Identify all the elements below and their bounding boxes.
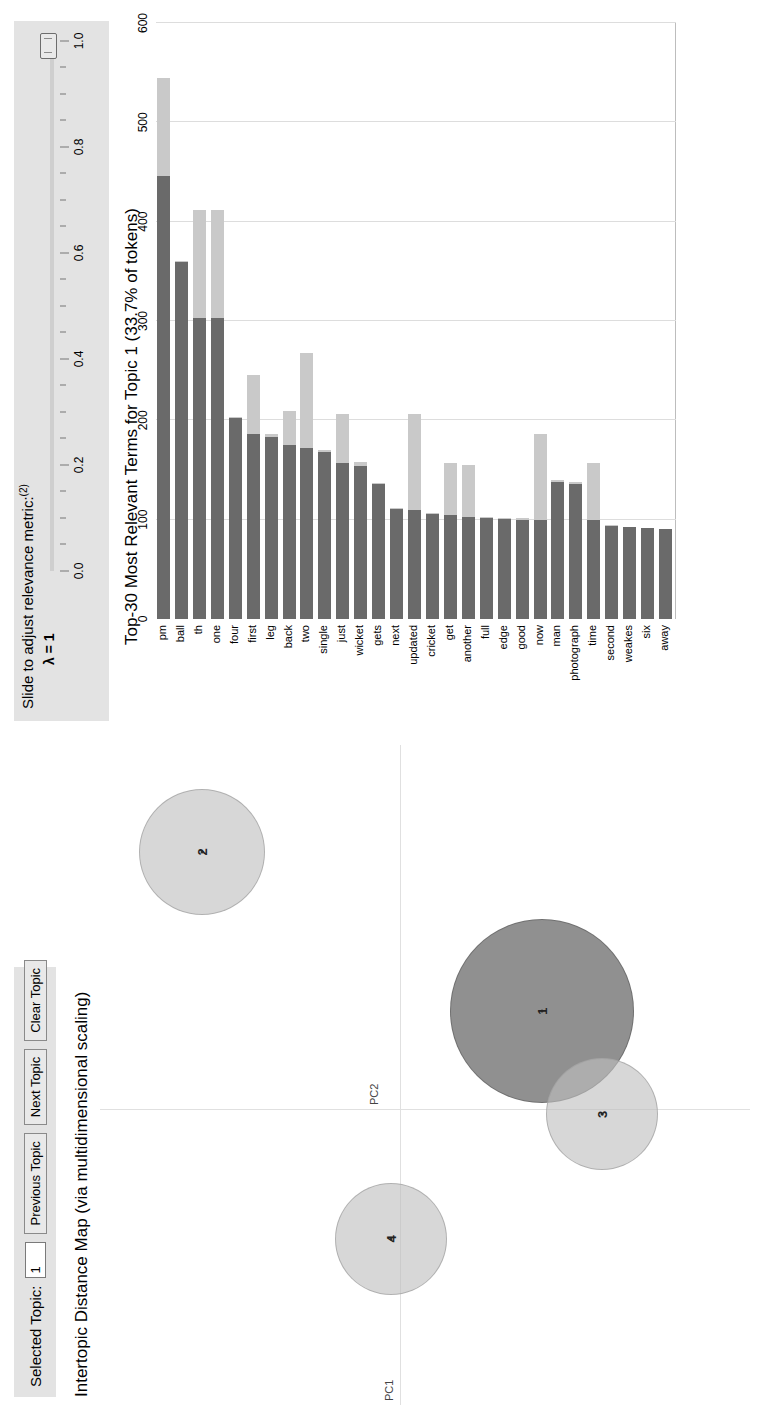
slider-handle[interactable] <box>40 33 57 59</box>
bar-topic-frequency[interactable] <box>175 262 188 619</box>
bar-topic-frequency[interactable] <box>372 484 385 619</box>
barchart-term-label[interactable]: leg <box>264 625 277 640</box>
bar-topic-frequency[interactable] <box>426 514 439 619</box>
barchart-term-row[interactable]: now <box>534 23 547 619</box>
bar-topic-frequency[interactable] <box>659 529 672 619</box>
bar-topic-frequency[interactable] <box>462 517 475 619</box>
barchart-term-row[interactable]: four <box>229 23 242 619</box>
bar-topic-frequency[interactable] <box>551 482 564 619</box>
barchart-term-label[interactable]: away <box>658 625 671 651</box>
barchart-term-row[interactable]: wicket <box>354 23 367 619</box>
barchart-term-row[interactable]: pm <box>157 23 170 619</box>
barchart-term-row[interactable]: good <box>516 23 529 619</box>
barchart-term-label[interactable]: back <box>282 625 295 648</box>
clear-topic-button[interactable]: Clear Topic <box>24 960 47 1041</box>
barchart-term-row[interactable]: six <box>641 23 654 619</box>
barchart-term-label[interactable]: cricket <box>425 625 438 657</box>
barchart-term-row[interactable]: single <box>318 23 331 619</box>
barchart-term-label[interactable]: edge <box>497 625 510 649</box>
barchart-term-row[interactable]: th <box>193 23 206 619</box>
barchart-term-row[interactable]: one <box>211 23 224 619</box>
next-topic-button[interactable]: Next Topic <box>24 1049 47 1125</box>
barchart-term-label[interactable]: one <box>210 625 223 643</box>
bar-topic-frequency[interactable] <box>408 510 421 619</box>
barchart-term-label[interactable]: time <box>586 625 599 646</box>
barchart-term-row[interactable]: two <box>300 23 313 619</box>
topic-bubble-label[interactable]: 2 <box>195 848 210 855</box>
barchart-term-row[interactable]: leg <box>265 23 278 619</box>
bar-topic-frequency[interactable] <box>336 463 349 619</box>
barchart-term-label[interactable]: second <box>604 625 617 660</box>
barchart-term-row[interactable]: photograph <box>569 23 582 619</box>
bar-topic-frequency[interactable] <box>444 515 457 619</box>
bar-topic-frequency[interactable] <box>157 176 170 619</box>
topic-bubble-label[interactable]: 3 <box>595 1111 610 1118</box>
barchart-term-label[interactable]: wicket <box>353 625 366 656</box>
barchart-term-row[interactable]: just <box>336 23 349 619</box>
barchart-term-row[interactable]: back <box>283 23 296 619</box>
barchart-term-label[interactable]: man <box>550 625 563 646</box>
barchart-term-row[interactable]: man <box>551 23 564 619</box>
barchart-term-row[interactable]: updated <box>408 23 421 619</box>
bar-topic-frequency[interactable] <box>283 445 296 619</box>
barchart-term-row[interactable]: next <box>390 23 403 619</box>
bar-topic-frequency[interactable] <box>641 528 654 619</box>
barchart-term-label[interactable]: weakes <box>622 625 635 662</box>
barchart-term-label[interactable]: good <box>515 625 528 649</box>
barchart-term-row[interactable]: second <box>605 23 618 619</box>
bar-topic-frequency[interactable] <box>587 520 600 619</box>
barchart-term-label[interactable]: six <box>640 625 653 638</box>
barchart-term-row[interactable]: gets <box>372 23 385 619</box>
bar-topic-frequency[interactable] <box>605 526 618 619</box>
bar-topic-frequency[interactable] <box>498 519 511 619</box>
bar-topic-frequency[interactable] <box>623 527 636 619</box>
barchart-term-row[interactable]: time <box>587 23 600 619</box>
bar-topic-frequency[interactable] <box>300 448 313 619</box>
barchart-term-label[interactable]: updated <box>407 625 420 665</box>
bar-topic-frequency[interactable] <box>390 509 403 619</box>
barchart-term-label[interactable]: another <box>461 625 474 662</box>
barchart-term-label[interactable]: four <box>228 625 241 644</box>
bar-topic-frequency[interactable] <box>193 318 206 619</box>
barchart-term-row[interactable]: edge <box>498 23 511 619</box>
barchart-term-row[interactable]: first <box>247 23 260 619</box>
topic-bubble-label[interactable]: 4 <box>384 1235 399 1242</box>
bar-topic-frequency[interactable] <box>480 518 493 619</box>
barchart-term-label[interactable]: two <box>299 625 312 642</box>
selected-topic-input[interactable] <box>25 1242 46 1278</box>
barchart-term-row[interactable]: ball <box>175 23 188 619</box>
barchart-term-label[interactable]: pm <box>156 625 169 640</box>
barchart-term-row[interactable]: weakes <box>623 23 636 619</box>
barchart-term-label[interactable]: next <box>389 625 402 646</box>
intertopic-distance-map[interactable]: PC1 PC2 1234 <box>100 745 750 1405</box>
barchart-term-label[interactable]: now <box>533 625 546 645</box>
barchart-term-label[interactable]: first <box>246 625 259 643</box>
barchart-term-row[interactable]: cricket <box>426 23 439 619</box>
slider-rail[interactable] <box>50 41 54 571</box>
barchart-term-row[interactable]: away <box>659 23 672 619</box>
bar-topic-frequency[interactable] <box>534 520 547 619</box>
barchart-term-label[interactable]: photograph <box>568 625 581 681</box>
relevance-slider[interactable]: 0.00.20.40.60.81.0 <box>34 41 98 571</box>
barchart-term-row[interactable]: get <box>444 23 457 619</box>
bar-topic-frequency[interactable] <box>516 520 529 619</box>
barchart-term-label[interactable]: th <box>192 625 205 634</box>
map-x-axis <box>400 745 401 1405</box>
bar-topic-frequency[interactable] <box>569 484 582 619</box>
barchart-term-label[interactable]: get <box>443 625 456 640</box>
previous-topic-button[interactable]: Previous Topic <box>24 1133 47 1233</box>
barchart-term-label[interactable]: full <box>479 625 492 639</box>
bar-topic-frequency[interactable] <box>354 466 367 619</box>
bar-topic-frequency[interactable] <box>247 434 260 619</box>
barchart-term-label[interactable]: ball <box>174 625 187 642</box>
barchart-term-row[interactable]: another <box>462 23 475 619</box>
bar-topic-frequency[interactable] <box>229 418 242 619</box>
bar-topic-frequency[interactable] <box>318 452 331 619</box>
bar-topic-frequency[interactable] <box>265 437 278 619</box>
barchart-term-label[interactable]: gets <box>371 625 384 646</box>
barchart-term-label[interactable]: single <box>317 625 330 654</box>
barchart-term-row[interactable]: full <box>480 23 493 619</box>
topic-bubble-label[interactable]: 1 <box>534 1007 549 1014</box>
barchart-term-label[interactable]: just <box>335 625 348 642</box>
bar-topic-frequency[interactable] <box>211 318 224 619</box>
